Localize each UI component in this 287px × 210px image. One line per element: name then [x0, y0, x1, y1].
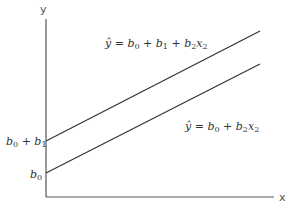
lower-intercept-label: b0 — [30, 168, 42, 182]
lower-regression-line — [46, 64, 260, 173]
x-axis-label: x — [279, 191, 286, 204]
regression-diagram: y x ŷ = b0 + b1 + b2x2 ŷ = b0 + b2x2 b0 … — [0, 0, 287, 210]
lower-equation: ŷ = b0 + b2x2 — [184, 120, 259, 134]
upper-equation: ŷ = b0 + b1 + b2x2 — [104, 37, 208, 51]
upper-intercept-label: b0 + b1 — [6, 135, 47, 149]
y-axis-label: y — [40, 3, 47, 16]
